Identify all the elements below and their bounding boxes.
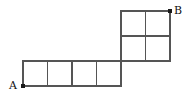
grid-line-group xyxy=(23,11,170,86)
grid-figure-svg xyxy=(0,0,190,100)
grid-figure-canvas: A B xyxy=(0,0,190,100)
vertex-dot-b xyxy=(168,9,172,13)
vertex-label-b: B xyxy=(174,5,182,16)
vertex-label-a: A xyxy=(9,80,17,91)
vertex-dot-a xyxy=(21,84,25,88)
